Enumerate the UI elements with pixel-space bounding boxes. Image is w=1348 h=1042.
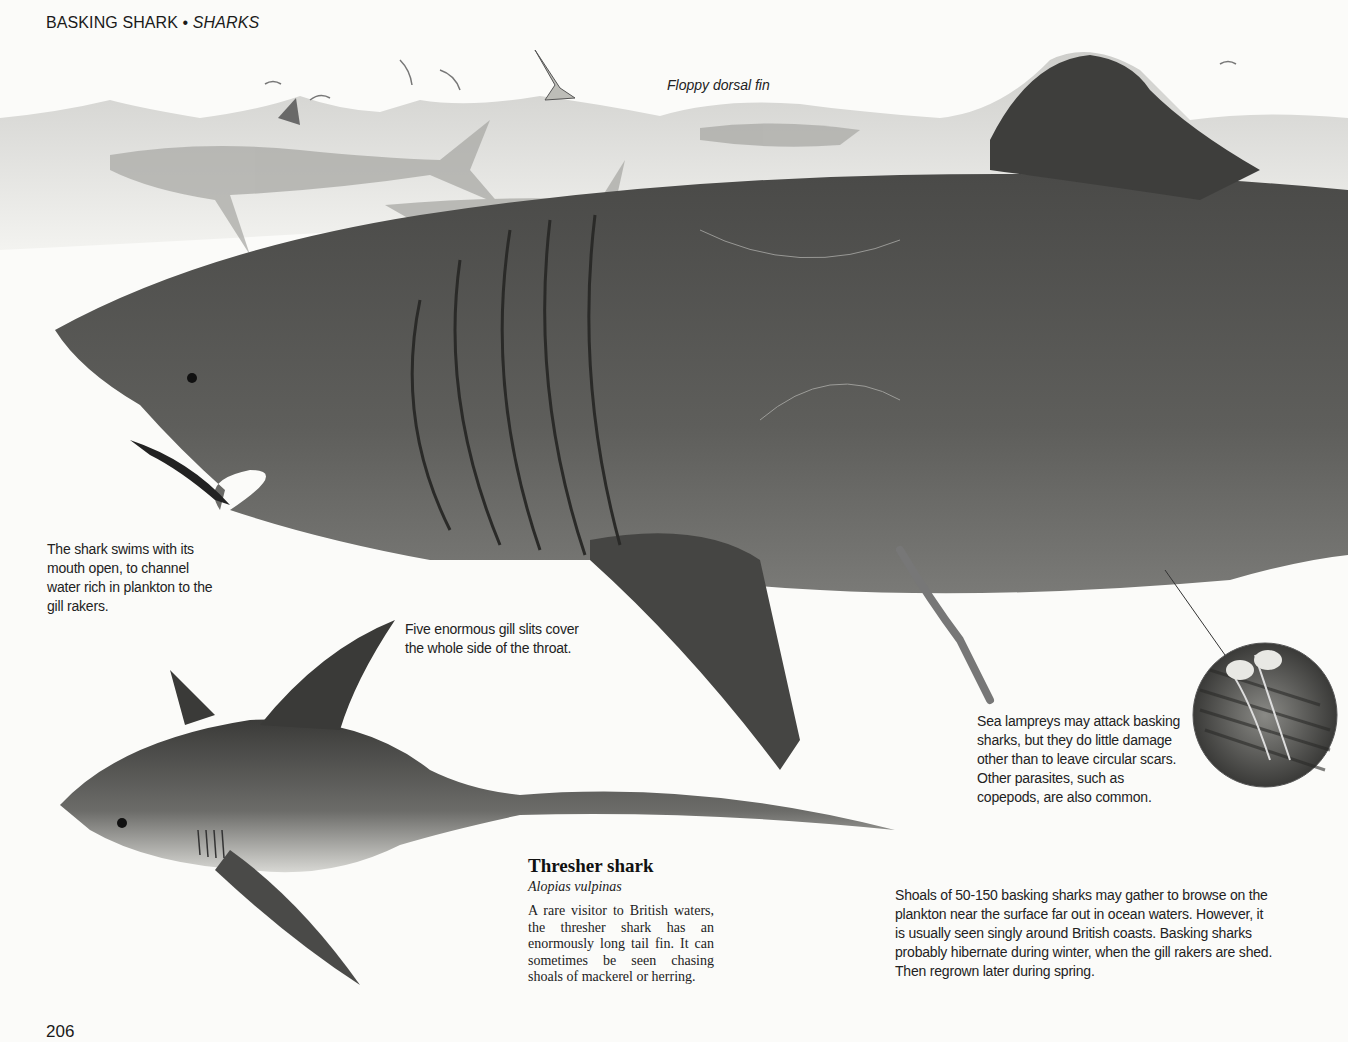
eye [187,373,197,383]
shoals-caption: Shoals of 50-150 basking sharks may gath… [895,886,1275,981]
parasite-inset [1193,643,1337,787]
header-separator: • [183,14,189,31]
gills-caption: Five enormous gill slits cover the whole… [405,620,595,658]
lampreys-caption: Sea lampreys may attack basking sharks, … [977,712,1187,807]
running-header: BASKING SHARK • SHARKS [46,14,259,32]
header-section: SHARKS [193,14,259,31]
header-topic: BASKING SHARK [46,14,178,31]
page-number: 206 [46,1022,74,1042]
thresher-description: A rare visitor to British waters, the th… [528,903,714,986]
seagull-icon [535,50,575,100]
dorsal-fin-label: Floppy dorsal fin [667,77,770,93]
thresher-latin-name: Alopias vulpinas [528,879,714,895]
mouth-caption: The shark swims with its mouth open, to … [47,540,222,616]
thresher-title: Thresher shark [528,855,714,877]
thresher-shark-block: Thresher shark Alopias vulpinas A rare v… [528,855,714,986]
